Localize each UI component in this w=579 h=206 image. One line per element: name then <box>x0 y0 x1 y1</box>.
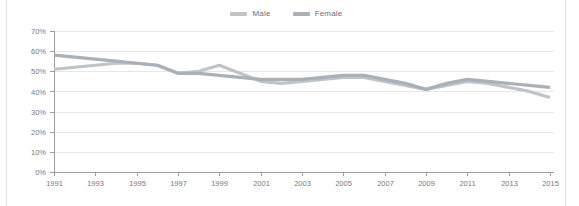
y-tick-label: 0% <box>35 168 46 177</box>
line-chart-card: Male Female 0%10%20%30%40%50%60%70% 1991… <box>8 0 565 206</box>
x-tick-label: 1991 <box>46 179 63 188</box>
x-tick-label: 2011 <box>459 179 475 188</box>
data-series <box>54 55 550 97</box>
x-axis: 1991199319951997199920012003200520072009… <box>46 172 559 188</box>
y-tick-label: 30% <box>31 108 46 117</box>
grid-lines <box>54 32 554 173</box>
plot-area: 0%10%20%30%40%50%60%70% 1991199319951997… <box>8 0 565 206</box>
x-tick-label: 2001 <box>253 179 270 188</box>
page-right-edge <box>565 0 579 206</box>
page-left-edge <box>0 0 7 206</box>
y-tick-label: 60% <box>31 47 46 56</box>
chart-svg: 0%10%20%30%40%50%60%70% 1991199319951997… <box>8 0 565 206</box>
y-tick-label: 40% <box>31 88 46 97</box>
x-tick-label: 2013 <box>501 179 518 188</box>
x-tick-label: 1999 <box>211 179 228 188</box>
x-tick-label: 1997 <box>170 179 187 188</box>
series-line-female <box>54 55 550 89</box>
chart-screenshot: Male Female 0%10%20%30%40%50%60%70% 1991… <box>0 0 579 206</box>
y-tick-label: 20% <box>31 128 46 137</box>
x-tick-label: 1995 <box>129 179 146 188</box>
x-tick-label: 2003 <box>294 179 311 188</box>
x-tick-label: 1993 <box>87 179 104 188</box>
x-tick-label: 2009 <box>418 179 435 188</box>
y-tick-label: 50% <box>31 67 46 76</box>
x-tick-label: 2015 <box>542 179 559 188</box>
y-tick-label: 70% <box>31 27 46 36</box>
x-tick-label: 2005 <box>335 179 352 188</box>
y-tick-label: 10% <box>31 148 46 157</box>
x-tick-label: 2007 <box>377 179 394 188</box>
y-axis: 0%10%20%30%40%50%60%70% <box>31 27 55 177</box>
